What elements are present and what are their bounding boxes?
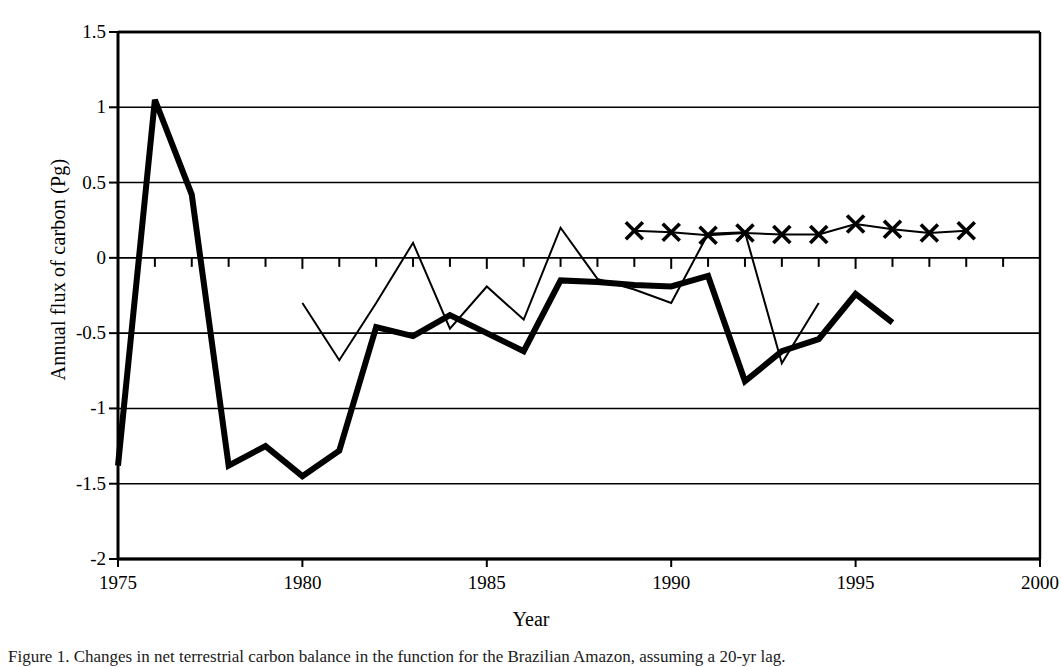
figure-caption: Figure 1. Changes in net terrestrial car… [8,646,1054,667]
x-tick-label: 2000 [1000,572,1062,594]
x-axis-title: Year [0,608,1062,631]
series-thin-line [302,228,818,364]
series-thick-line [118,100,892,476]
gridlines [118,32,1040,559]
series-cross-marker-line [634,224,966,235]
x-tick-label: 1995 [816,572,896,594]
zero-line-ticks [118,258,1040,567]
x-tick-label: 1985 [447,572,527,594]
data-series-layer [118,100,975,476]
x-tick-label: 1975 [78,572,158,594]
x-tick-label: 1980 [262,572,342,594]
axis-frame [109,32,1040,559]
x-tick-label: 1990 [631,572,711,594]
x-axis-tick-labels: 197519801985199019952000 [0,572,1062,602]
